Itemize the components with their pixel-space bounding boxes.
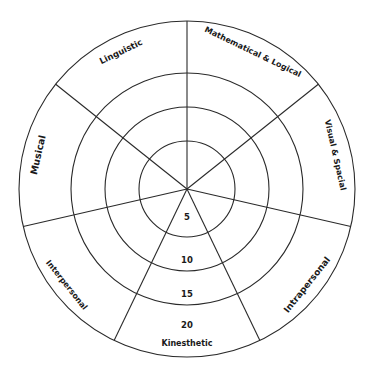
segment-label-musical: Musical — [28, 134, 48, 176]
spoke-7 — [56, 84, 187, 189]
scale-label-20: 20 — [181, 320, 193, 330]
spoke-2 — [187, 84, 318, 189]
scale-label-5: 5 — [184, 212, 190, 222]
segment-label-linguistic: Linguistic — [98, 37, 144, 66]
scale-label-15: 15 — [181, 289, 193, 299]
intelligences-wheel: 5101520 Mathematical & LogicalVisual & S… — [0, 0, 369, 375]
spoke-5 — [114, 189, 187, 340]
segment-label-kinesthetic: Kinesthetic — [161, 339, 212, 348]
spoke-4 — [187, 189, 260, 340]
scale-label-10: 10 — [181, 255, 193, 265]
segment-label-mathematical-logical: Mathematical & Logical — [203, 25, 303, 79]
segment-label-interpersonal: Interpersonal — [44, 258, 89, 312]
